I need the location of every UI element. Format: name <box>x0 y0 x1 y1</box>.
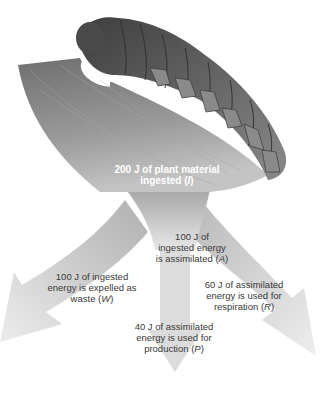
source-label: 200 J of plant material ingested (I) <box>102 164 232 186</box>
flow-label-assimilated: 100 J of ingested energy is assimilated … <box>142 231 242 264</box>
flow-label-respiration: 60 J of assimilated energy is used for r… <box>196 279 292 312</box>
source-symbol: I <box>188 175 191 186</box>
flow-label-waste: 100 J of ingested energy is expelled as … <box>36 271 148 304</box>
flow-label-production: 40 J of assimilated energy is used for p… <box>121 321 227 354</box>
